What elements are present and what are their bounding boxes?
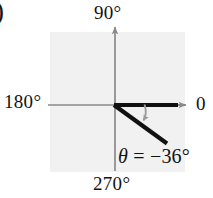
minus-sign: −: [150, 145, 161, 167]
axis-label-0: 0: [196, 94, 206, 113]
axis-label-180: 180°: [4, 92, 41, 111]
angle-value: 36: [161, 145, 181, 167]
equals-sign: =: [133, 145, 144, 167]
theta-equation-label: θ = −36°: [118, 146, 190, 166]
degree-symbol: °: [182, 145, 190, 167]
theta-symbol: θ: [118, 145, 128, 167]
axis-label-90: 90°: [94, 3, 122, 22]
angle-diagram-figure: ) 90° 180° 270° 0 θ = −36°: [0, 0, 213, 198]
axis-label-270: 270°: [93, 174, 130, 193]
part-label-paren: ): [0, 0, 4, 25]
